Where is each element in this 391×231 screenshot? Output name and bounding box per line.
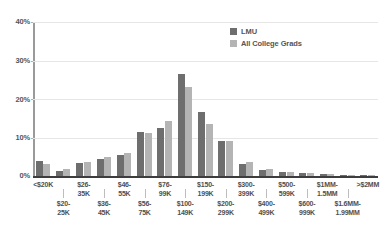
bar-all-college-grads <box>104 157 111 176</box>
bar-all-college-grads <box>226 141 233 176</box>
y-tick-label-20: 20% <box>2 96 30 104</box>
bar-all-college-grads <box>185 87 192 176</box>
bar-all-college-grads <box>165 121 172 176</box>
bar-lmu <box>178 74 185 176</box>
bar-lmu <box>97 159 104 176</box>
y-tick-label-10: 10% <box>2 134 30 142</box>
bar-all-college-grads <box>145 133 152 176</box>
gridline-30 <box>33 61 378 62</box>
x-axis-tick <box>348 189 349 198</box>
y-tick-label-40: 40% <box>2 18 30 26</box>
legend-label-lmu: LMU <box>241 27 257 36</box>
x-axis-label: $1.6MM- 1.99MM <box>323 200 373 217</box>
legend-swatch-icon-lmu <box>230 28 237 35</box>
bar-lmu <box>198 112 205 176</box>
bar-all-college-grads <box>63 169 70 176</box>
x-axis-labels: <$20K$20- 25K$26- 35K$36- 45K$46- 55K$56… <box>0 178 391 231</box>
legend-item-all-college-grads: All College Grads <box>230 38 302 49</box>
legend-swatch-icon-all-college-grads <box>230 40 237 47</box>
bar-lmu <box>137 132 144 176</box>
bar-all-college-grads <box>246 162 253 176</box>
gridline-20 <box>33 99 378 100</box>
bar-all-college-grads <box>266 169 273 176</box>
y-tick-label-30: 30% <box>2 57 30 65</box>
bar-lmu <box>157 128 164 176</box>
bar-lmu <box>76 163 83 176</box>
x-axis-label: >$2MM <box>343 181 391 190</box>
bar-all-college-grads <box>84 162 91 176</box>
income-distribution-bar-chart: 40% 30% 20% 10% 0% LMU All College Grads… <box>0 0 391 231</box>
bar-lmu <box>239 164 246 176</box>
bar-lmu <box>218 141 225 176</box>
bar-lmu <box>36 161 43 176</box>
bar-all-college-grads <box>206 124 213 176</box>
plot-area <box>33 22 378 176</box>
gridline-40 <box>33 22 378 23</box>
legend-label-all-college-grads: All College Grads <box>241 39 302 48</box>
bar-lmu <box>117 155 124 176</box>
bar-all-college-grads <box>43 164 50 176</box>
bar-all-college-grads <box>124 153 131 176</box>
chart-legend: LMU All College Grads <box>230 26 302 50</box>
legend-item-lmu: LMU <box>230 26 302 37</box>
